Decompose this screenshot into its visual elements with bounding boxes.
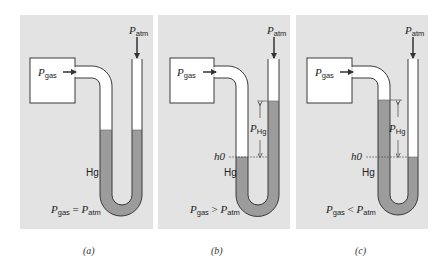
atm-pressure-label: Patm: [267, 25, 286, 38]
atm-pressure-label: Patm: [129, 25, 148, 38]
gas-container: [307, 58, 352, 103]
panel-a: [20, 15, 153, 229]
gas-pressure-label: Pgas: [38, 67, 57, 80]
panel-c: [296, 15, 428, 229]
pressure-relation: Pgas < Patm: [326, 204, 376, 217]
pressure-relation: Pgas > Patm: [190, 204, 240, 217]
atm-pressure-label: Patm: [405, 25, 424, 38]
pressure-relation: Pgas = Patm: [51, 204, 101, 217]
manometer-diagram: [0, 0, 447, 267]
panel-b: [158, 15, 290, 229]
gas-container: [170, 58, 214, 103]
mercury-label: Hg: [362, 167, 375, 178]
mercury-height-label: PHg: [250, 123, 266, 136]
gas-pressure-label: Pgas: [315, 67, 334, 80]
mercury-label: Hg: [86, 167, 99, 178]
mercury-height-label: PHg: [389, 123, 405, 136]
caption-c: (c): [355, 245, 366, 256]
caption-a: (a): [83, 245, 95, 256]
gas-pressure-label: Pgas: [177, 67, 196, 80]
reference-level-label: h0: [351, 151, 362, 162]
caption-b: (b): [211, 245, 223, 256]
reference-level-label: h0: [214, 151, 225, 162]
gas-container: [30, 58, 75, 103]
mercury-label: Hg: [224, 167, 237, 178]
